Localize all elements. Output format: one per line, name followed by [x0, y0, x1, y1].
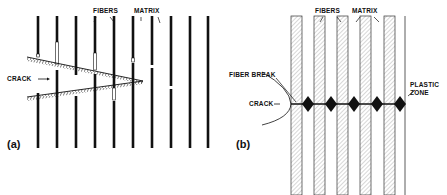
panel-b-drawing	[224, 0, 447, 195]
plastic-zone-label-line2: ZONE	[410, 90, 429, 97]
panel-b-plastic-zones: FIBERS MATRIX FIBER BREAK CRACK PLASTIC …	[224, 0, 447, 195]
panel-b-label: (b)	[236, 139, 250, 150]
matrix-label: MATRIX	[352, 8, 378, 15]
crack-upper-face	[27, 57, 143, 84]
fibers-label: FIBERS	[93, 8, 118, 15]
crack-lower-face	[27, 81, 143, 101]
fibers-label: FIBERS	[315, 8, 340, 15]
crack-label: CRACK	[249, 101, 273, 108]
panel-a-drawing	[0, 0, 224, 195]
panel-a-crack-bridging: FIBERS MATRIX CRACK (a)	[0, 0, 224, 195]
crack-label: CRACK	[7, 76, 31, 83]
panel-a-label: (a)	[7, 139, 20, 150]
fibers-group	[38, 16, 208, 148]
plastic-zone-label-line1: PLASTIC	[410, 82, 439, 89]
fiber-break-label: FIBER BREAK	[229, 72, 276, 79]
matrix-label: MATRIX	[134, 8, 160, 15]
